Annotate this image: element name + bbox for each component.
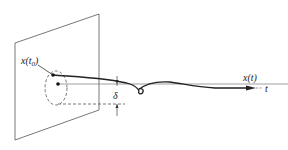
stability-diagram: x(t0) x(t) t δ bbox=[0, 0, 288, 150]
diagram-canvas: x(t0) x(t) t δ bbox=[0, 0, 288, 150]
delta-arrow-bottom bbox=[116, 104, 119, 108]
time-axis-label: t bbox=[265, 83, 268, 94]
trajectory-curve bbox=[53, 75, 250, 94]
trajectory-label: x(t) bbox=[242, 72, 258, 84]
trajectory-arrow-icon bbox=[246, 86, 256, 91]
delta-label: δ bbox=[113, 90, 118, 101]
initial-state-label: x(t0) bbox=[20, 55, 39, 68]
equilibrium-point bbox=[56, 82, 60, 86]
initial-state-point bbox=[51, 73, 55, 77]
initial-label-leader bbox=[38, 65, 53, 75]
